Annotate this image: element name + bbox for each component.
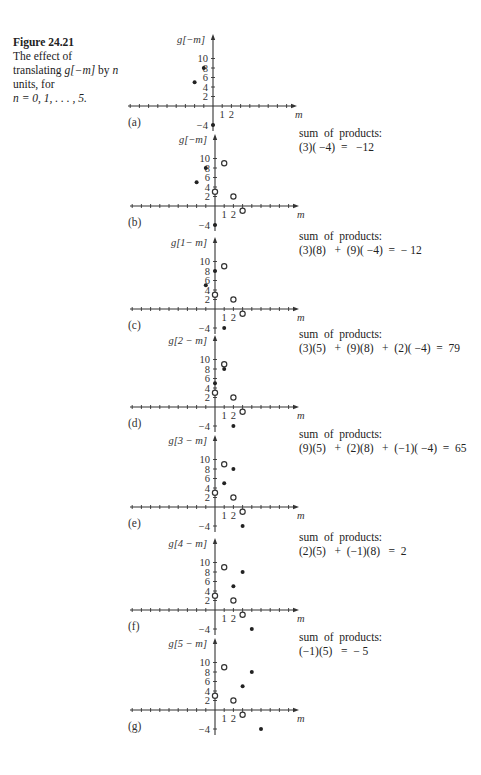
y-axis-arrow-icon: [213, 134, 217, 140]
x-axis-label: m: [297, 613, 305, 624]
plot-panel-f: 108642−412mg[4 − m](f): [128, 538, 305, 635]
y-tick-label: −4: [197, 120, 209, 131]
y-tick-label: 2: [205, 695, 210, 706]
y-tick-label: −4: [199, 624, 211, 635]
x-axis-label: m: [297, 510, 305, 521]
panel-label: (a): [128, 116, 141, 129]
sum-expression: (9)(5) + (2)(8) + (−1)( −4) = 65: [299, 441, 467, 455]
sum-of-products-d: sum of products:(3)(5) + (9)(8) + (2)( −…: [299, 327, 460, 355]
open-data-point: [231, 698, 236, 703]
x-axis-label: m: [297, 410, 305, 421]
filled-data-point: [195, 180, 199, 184]
x-tick-label: 2: [229, 109, 234, 120]
y-axis-label: g[4 − m]: [168, 538, 207, 549]
y-axis-arrow-icon: [211, 34, 215, 40]
plot-panel-b: 108642−412mg[−m](b): [128, 134, 305, 231]
y-tick-label: 2: [203, 91, 208, 102]
filled-data-point: [222, 481, 226, 485]
plot-panel-d: 108642−412mg[2 − m](d): [128, 335, 305, 432]
y-tick-label: 2: [205, 294, 210, 305]
panel-label: (c): [128, 319, 141, 332]
sum-expression: (3)( −4) = −12: [299, 140, 382, 154]
filled-data-point: [222, 367, 226, 371]
filled-data-point: [241, 684, 245, 688]
x-axis-label: m: [297, 209, 305, 220]
x-axis-arrow-icon: [291, 104, 297, 108]
x-axis-arrow-icon: [293, 405, 299, 409]
open-data-point: [231, 495, 236, 500]
open-data-point: [240, 311, 245, 316]
open-data-point: [240, 208, 245, 213]
y-axis-arrow-icon: [213, 435, 217, 441]
x-tick-label: 2: [231, 410, 236, 421]
sum-title: sum of products:: [299, 327, 460, 341]
sum-expression: (3)(8) + (9)( −4) = − 12: [299, 243, 422, 257]
x-tick-label: 1: [220, 109, 225, 120]
open-data-point: [231, 297, 236, 302]
y-tick-label: −4: [199, 323, 211, 334]
open-data-point: [240, 509, 245, 514]
open-data-point: [212, 390, 217, 395]
sum-of-products-e: sum of products:(9)(5) + (2)(8) + (−1)( …: [299, 427, 467, 455]
open-data-point: [222, 462, 227, 467]
sum-title: sum of products:: [299, 229, 422, 243]
plot-panel-g: 108642−412mg[5 − m](g): [128, 638, 305, 735]
y-axis-label: g[−m]: [177, 34, 205, 45]
filled-data-point: [231, 584, 235, 588]
sum-of-products-g: sum of products:(−1)(5) = − 5: [299, 630, 382, 658]
x-tick-label: 2: [231, 510, 236, 521]
y-axis-label: g[−m]: [179, 134, 207, 145]
sum-of-products-c: sum of products:(3)(8) + (9)( −4) = − 12: [299, 229, 422, 257]
sum-expression: (2)(5) + (−1)(8) = 2: [299, 544, 407, 558]
y-tick-label: −4: [199, 220, 211, 231]
x-tick-label: 2: [231, 713, 236, 724]
x-axis-arrow-icon: [293, 708, 299, 712]
plot-panel-c: 108642−412mg[1− m](c): [128, 237, 305, 334]
y-axis-label: g[2 − m]: [168, 335, 207, 346]
figure-plots: 108642−412mg[−m](a)108642−412mg[−m](b)10…: [0, 0, 481, 775]
open-data-point: [240, 409, 245, 414]
filled-data-point: [204, 166, 208, 170]
open-data-point: [222, 565, 227, 570]
open-data-point: [222, 665, 227, 670]
open-data-point: [212, 189, 217, 194]
open-data-point: [222, 264, 227, 269]
open-data-point: [222, 161, 227, 166]
y-tick-label: 2: [205, 191, 210, 202]
filled-data-point: [241, 570, 245, 574]
open-data-point: [240, 612, 245, 617]
y-axis-arrow-icon: [213, 638, 217, 644]
filled-data-point: [241, 524, 245, 528]
sum-title: sum of products:: [299, 126, 382, 140]
x-tick-label: 2: [231, 613, 236, 624]
filled-data-point: [204, 283, 208, 287]
filled-data-point: [250, 627, 254, 631]
x-axis-label: m: [297, 312, 305, 323]
open-data-point: [231, 395, 236, 400]
y-tick-label: 2: [205, 392, 210, 403]
x-tick-label: 2: [231, 312, 236, 323]
x-tick-label: 1: [222, 410, 227, 421]
open-data-point: [222, 362, 227, 367]
sum-expression: (−1)(5) = − 5: [299, 644, 382, 658]
sum-title: sum of products:: [299, 530, 407, 544]
x-tick-label: 2: [231, 209, 236, 220]
x-tick-label: 1: [222, 613, 227, 624]
y-tick-label: −4: [199, 421, 211, 432]
x-axis-arrow-icon: [293, 307, 299, 311]
panel-label: (g): [128, 720, 142, 733]
filled-data-point: [193, 80, 197, 84]
filled-data-point: [250, 670, 254, 674]
sum-of-products-f: sum of products:(2)(5) + (−1)(8) = 2: [299, 530, 407, 558]
x-axis-arrow-icon: [293, 204, 299, 208]
x-tick-label: 1: [222, 713, 227, 724]
open-data-point: [231, 194, 236, 199]
y-axis-label: g[5 − m]: [168, 638, 207, 649]
open-data-point: [212, 593, 217, 598]
x-axis-arrow-icon: [293, 505, 299, 509]
filled-data-point: [213, 269, 217, 273]
filled-data-point: [211, 123, 215, 127]
filled-data-point: [222, 326, 226, 330]
panel-label: (f): [128, 620, 140, 633]
sum-title: sum of products:: [299, 630, 382, 644]
